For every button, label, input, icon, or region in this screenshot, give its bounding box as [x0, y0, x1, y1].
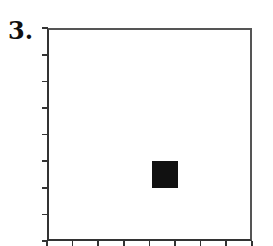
x-axis-tick — [46, 241, 48, 246]
x-axis-tick — [251, 241, 253, 246]
y-axis-tick — [42, 187, 48, 189]
x-axis-tick — [149, 241, 151, 246]
filled-square — [152, 161, 178, 188]
y-axis-tick — [42, 214, 48, 216]
y-axis-tick — [42, 160, 48, 162]
x-axis-tick — [123, 241, 125, 246]
x-axis-tick — [225, 241, 227, 246]
problem-number: 3. — [8, 19, 33, 43]
y-axis-tick — [42, 81, 48, 83]
x-axis-tick — [97, 241, 99, 246]
y-axis-tick — [42, 54, 48, 56]
y-axis-tick — [42, 27, 48, 29]
x-axis-tick — [174, 241, 176, 246]
y-axis-tick — [42, 134, 48, 136]
x-axis-tick — [72, 241, 74, 246]
y-axis-tick — [42, 107, 48, 109]
x-axis-tick — [200, 241, 202, 246]
plot-frame — [47, 28, 252, 241]
